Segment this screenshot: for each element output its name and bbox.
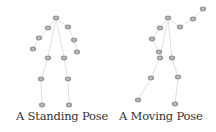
bone-r_hip-r_knee: [172, 58, 178, 77]
joint-center-l_knee: [40, 78, 43, 80]
joint-center-l_elbow: [151, 38, 154, 40]
joint-center-l_hip: [47, 57, 50, 59]
joint-center-r_shoulder: [179, 26, 182, 28]
joint-center-l_elbow: [38, 37, 41, 39]
bone-l_knee-l_foot: [138, 78, 151, 100]
bone-neck-r_hip: [168, 18, 172, 58]
joint-center-r_knee: [67, 78, 70, 80]
joint-center-r_foot: [174, 103, 177, 105]
bone-r_knee-r_foot: [175, 77, 178, 104]
bone-l_hip-l_knee: [151, 58, 160, 78]
joint-center-neck: [167, 17, 170, 19]
joint-center-r_elbow: [73, 39, 76, 41]
joint-center-l_shoulder: [47, 27, 50, 29]
joint-center-l_shoulder: [159, 27, 162, 29]
moving-pose-skeleton: [135, 7, 206, 107]
bone-neck-r_hip: [56, 18, 64, 58]
joint-center-l_knee: [150, 77, 153, 79]
joint-center-r_hip: [63, 57, 66, 59]
joint-center-l_foot: [137, 99, 140, 101]
joint-center-r_elbow: [192, 18, 195, 20]
joint-center-r_hand: [76, 51, 79, 53]
standing-pose-skeleton: [30, 16, 80, 108]
joint-center-l_foot: [41, 104, 44, 106]
joint-center-neck: [55, 17, 58, 19]
joint-center-r_knee: [177, 76, 180, 78]
bone-r_knee-r_foot: [68, 79, 69, 105]
bone-l_knee-l_foot: [41, 79, 42, 105]
joint-center-l_hip: [159, 57, 162, 59]
joint-center-l_hand: [158, 51, 161, 53]
joint-center-l_hand: [32, 48, 35, 50]
moving-pose-caption: A Moving Pose: [119, 109, 203, 123]
bone-r_hip-r_knee: [64, 58, 68, 79]
joint-center-r_hand: [202, 8, 205, 10]
standing-pose-caption: A Standing Pose: [16, 109, 108, 123]
joint-center-r_foot: [68, 104, 71, 106]
joint-center-r_hip: [171, 57, 174, 59]
joint-center-r_shoulder: [67, 26, 70, 28]
bone-neck-l_hip: [48, 18, 56, 58]
bone-l_hip-l_knee: [41, 58, 48, 79]
